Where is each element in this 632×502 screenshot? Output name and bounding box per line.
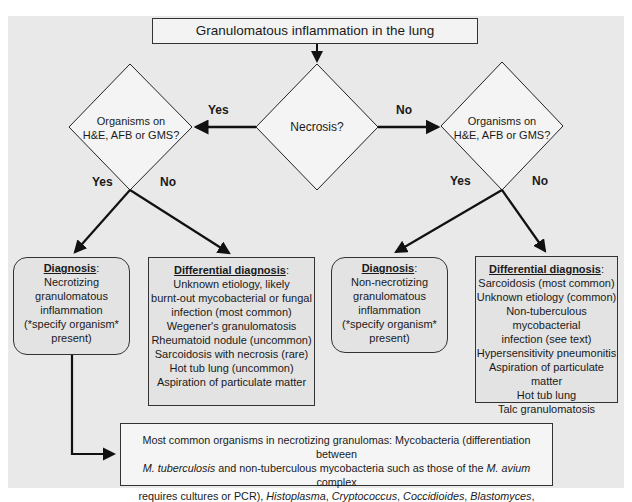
arrow-left-yes — [75, 190, 130, 252]
edge-label-left-yes: Yes — [92, 175, 113, 189]
differential-necrotizing-box: Differential diagnosis: Unknown etiology… — [148, 257, 315, 406]
edge-label-right-no: No — [532, 174, 548, 188]
differential-non-necrotizing-box: Differential diagnosis: Sarcoidosis (mos… — [475, 256, 618, 403]
diagnosis-heading: Diagnosis — [362, 262, 415, 274]
diagnosis-non-necrotizing-box: Diagnosis: Non-necrotizing granulomatous… — [331, 257, 448, 353]
differential-heading: Differential diagnosis — [489, 263, 601, 275]
right-decision-label: Organisms on H&E, AFB or GMS? — [446, 114, 558, 142]
arrow-right-yes — [396, 190, 502, 252]
diagnosis-necrotizing-box: Diagnosis: Necrotizing granulomatous inf… — [13, 257, 130, 355]
edge-label-right-yes: Yes — [450, 174, 471, 188]
title-box: Granulomatous inflammation in the lung — [152, 18, 478, 44]
arrow-diagnosis-to-organisms — [72, 355, 114, 454]
arrow-right-no — [502, 190, 545, 251]
common-organisms-box: Most common organisms in necrotizing gra… — [120, 423, 553, 486]
arrow-left-no — [130, 190, 229, 253]
differential-heading: Differential diagnosis — [174, 264, 286, 276]
edge-label-left-no: No — [160, 175, 176, 189]
edge-label-necrosis-no: No — [396, 103, 412, 117]
left-decision-label: Organisms on H&E, AFB or GMS? — [75, 114, 187, 142]
title-text: Granulomatous inflammation in the lung — [196, 23, 435, 38]
edge-label-necrosis-yes: Yes — [208, 103, 229, 117]
necrosis-label: Necrosis? — [266, 120, 368, 134]
diagnosis-heading: Diagnosis — [44, 262, 97, 274]
